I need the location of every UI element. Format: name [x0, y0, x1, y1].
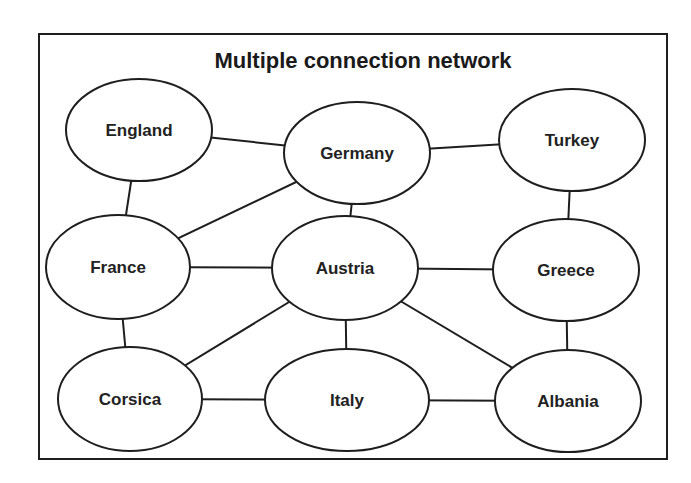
node-greece: Greece: [493, 219, 639, 321]
node-italy: Italy: [265, 349, 429, 451]
node-label: Greece: [537, 261, 595, 280]
nodes-group: EnglandGermanyTurkeyFranceAustriaGreeceC…: [46, 79, 645, 452]
network-diagram: Multiple connection network EnglandGerma…: [0, 0, 691, 483]
node-label: Turkey: [545, 131, 600, 150]
node-albania: Albania: [495, 350, 641, 452]
node-austria: Austria: [272, 216, 418, 320]
node-label: Albania: [537, 392, 599, 411]
node-england: England: [66, 79, 212, 181]
node-germany: Germany: [284, 102, 430, 204]
node-turkey: Turkey: [499, 89, 645, 191]
node-label: Corsica: [99, 390, 162, 409]
node-label: England: [105, 121, 172, 140]
node-label: Austria: [316, 259, 375, 278]
node-label: France: [90, 258, 146, 277]
diagram-title: Multiple connection network: [214, 48, 512, 73]
node-france: France: [46, 215, 190, 319]
node-label: Germany: [320, 144, 394, 163]
node-label: Italy: [330, 391, 365, 410]
node-corsica: Corsica: [58, 347, 202, 451]
